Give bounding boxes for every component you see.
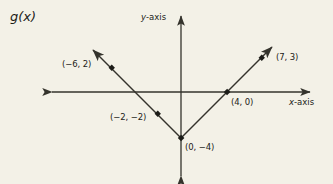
function-label: g(x)	[10, 10, 36, 23]
y-axis-label: y-axis	[141, 13, 166, 22]
point-label-7-3: (7, 3)	[276, 53, 298, 62]
x-axis-label: x-axis	[289, 98, 314, 107]
point-label-minus6-2: (−6, 2)	[62, 60, 91, 69]
point-label-4-0: (4, 0)	[231, 98, 253, 107]
point-label-vertex: (0, −4)	[185, 143, 214, 152]
graph-left-branch	[93, 50, 181, 138]
graph-figure: g(x) y-axis x-axis (−6, 2) (−2, −2) (0, …	[0, 0, 333, 184]
point-label-minus2-minus2: (−2, −2)	[110, 113, 146, 122]
coordinate-plane-svg	[0, 0, 333, 184]
